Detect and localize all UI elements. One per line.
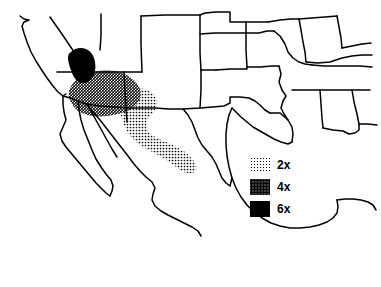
legend-label-6x: 6x xyxy=(277,203,290,215)
legend-item-2x: 2x xyxy=(250,156,320,173)
map-background xyxy=(0,0,381,287)
thematic-map-figure: 2x 4x 6x xyxy=(0,0,381,287)
legend-item-6x: 6x xyxy=(250,200,320,217)
legend-label-2x: 2x xyxy=(277,159,290,171)
legend-swatch-4x xyxy=(250,179,270,195)
legend-label-4x: 4x xyxy=(277,181,290,193)
map-line-art xyxy=(0,0,381,287)
shading-legend: 2x 4x 6x xyxy=(250,156,320,222)
legend-swatch-2x xyxy=(250,157,270,173)
legend-swatch-6x xyxy=(250,201,270,217)
legend-item-4x: 4x xyxy=(250,178,320,195)
